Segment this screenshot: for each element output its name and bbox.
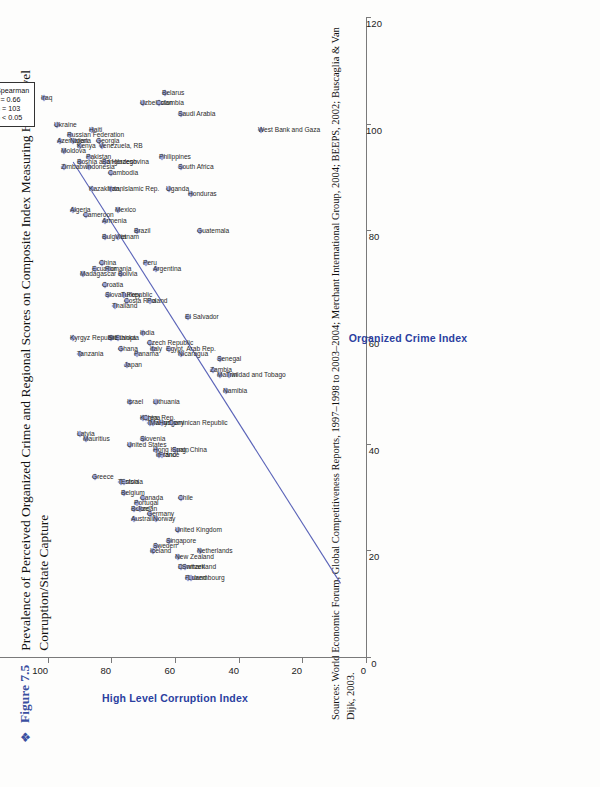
data-point-label: Kyrgyz Republic — [70, 334, 118, 341]
data-point-label: West Bank and Gaza — [258, 126, 320, 133]
stat-p: p < 0.05 — [0, 113, 30, 122]
data-point-label: Norway — [153, 515, 175, 522]
data-point-label: Dominican Republic — [169, 419, 228, 426]
data-point-label: Luxembourg — [188, 574, 225, 581]
x-axis-tick-label: 40 — [369, 445, 380, 456]
data-point-label: Greece — [92, 473, 114, 480]
data-point-label: United States — [127, 441, 167, 448]
y-axis-tick — [302, 658, 303, 663]
x-axis-tick-label: 80 — [369, 231, 380, 242]
data-point-label: Kenya — [77, 142, 96, 149]
data-point-label: Argentina — [153, 265, 181, 272]
stat-n: n = 103 — [0, 104, 30, 113]
data-point-label: Trinidad and Tobago — [226, 371, 286, 378]
y-axis-title: High Level Corruption Index — [102, 692, 248, 704]
x-axis-tick-label: 100 — [366, 125, 382, 136]
data-point-label: Japan — [124, 361, 142, 368]
data-point-label: Ethiopia — [115, 334, 139, 341]
data-point-label: Lithuania — [153, 398, 180, 405]
data-point-label: Nicaragua — [178, 350, 208, 357]
data-point-label: Poland — [147, 297, 168, 304]
data-point-label: Iceland — [150, 547, 171, 554]
y-axis-tick — [111, 658, 112, 663]
data-point-label: Bolivia — [118, 270, 137, 277]
y-axis-tick — [239, 658, 240, 663]
y-axis-tick-label: 100 — [32, 665, 48, 676]
y-axis-tick-label: 80 — [101, 665, 112, 676]
data-point-label: Ukraine — [54, 121, 77, 128]
data-point-label: Senegal — [217, 355, 241, 362]
data-point-label: Honduras — [188, 190, 217, 197]
stat-title: Spearman — [0, 86, 30, 95]
data-point-label: South Africa — [178, 163, 214, 170]
data-point-label: Vietnam — [115, 233, 139, 240]
x-axis-tick-label: 120 — [366, 18, 382, 29]
data-point-label: Philippines — [159, 153, 191, 160]
data-point-label: Spain — [172, 446, 189, 453]
stat-r: r = 0.66 — [0, 95, 30, 104]
y-axis-tick — [48, 658, 49, 663]
data-point-label: Tanzania — [77, 350, 103, 357]
data-point-label: Iraq — [41, 94, 52, 101]
x-axis-tick-label: 0 — [371, 658, 376, 669]
statistics-box: Spearman r = 0.66 n = 103 p < 0.05 — [0, 82, 36, 127]
data-point-label: Venezuela, RB — [99, 142, 143, 149]
y-axis-tick-label: 0 — [361, 665, 366, 676]
data-point-label: Thailand — [112, 302, 137, 309]
x-axis-title: Organized Crime Index — [349, 332, 468, 344]
data-point-label: El Salvador — [185, 313, 219, 320]
data-point-label: Namibia — [223, 387, 247, 394]
data-point-label: Mexico — [115, 206, 136, 213]
y-axis-tick — [366, 658, 367, 663]
data-point-label: Netherlands — [197, 547, 233, 554]
data-point-label: Iran, Islamic Rep. — [108, 185, 159, 192]
data-point-label: Estonia — [121, 478, 143, 485]
data-point-label: Croatia — [102, 281, 123, 288]
data-point-label: Uganda — [166, 185, 189, 192]
y-axis-tick-label: 60 — [164, 665, 175, 676]
figure-bullet-icon: ❖ — [18, 731, 33, 743]
data-point-label: Canada — [140, 494, 163, 501]
data-point-label: Switzerland — [182, 563, 216, 570]
data-point-label: Israel — [127, 398, 143, 405]
data-point-label: Chile — [178, 494, 193, 501]
y-axis-tick-label: 40 — [228, 665, 239, 676]
data-point-label: Bangladesh — [102, 158, 137, 165]
figure-page: ❖ Figure 7.5 Prevalence of Perceived Org… — [0, 0, 600, 787]
data-point-label: United Kingdom — [175, 526, 222, 533]
data-point-label: Guatemala — [197, 227, 229, 234]
y-axis-tick-label: 20 — [292, 665, 303, 676]
data-point-label: India — [140, 329, 154, 336]
x-axis-tick-label: 20 — [369, 551, 380, 562]
data-point-label: Singapore — [166, 537, 196, 544]
y-axis-line — [0, 657, 366, 658]
data-point-label: Madagascar — [80, 270, 116, 277]
data-point-label: Cambodia — [108, 169, 138, 176]
data-point-label: Saudi Arabia — [178, 110, 215, 117]
data-point-label: Haiti — [89, 126, 102, 133]
y-axis-tick — [175, 658, 176, 663]
scatter-plot: 020406080100120020406080100120 IraqAzerb… — [0, 0, 440, 720]
data-point-label: Colombia — [156, 99, 184, 106]
data-point-label: Mauritius — [83, 435, 110, 442]
data-point-label: Belarus — [162, 89, 184, 96]
scatter-plot-rotated: 020406080100120020406080100120 IraqAzerb… — [0, 0, 440, 720]
data-point-label: Armenia — [102, 217, 127, 224]
data-point-label: Panama — [134, 350, 159, 357]
